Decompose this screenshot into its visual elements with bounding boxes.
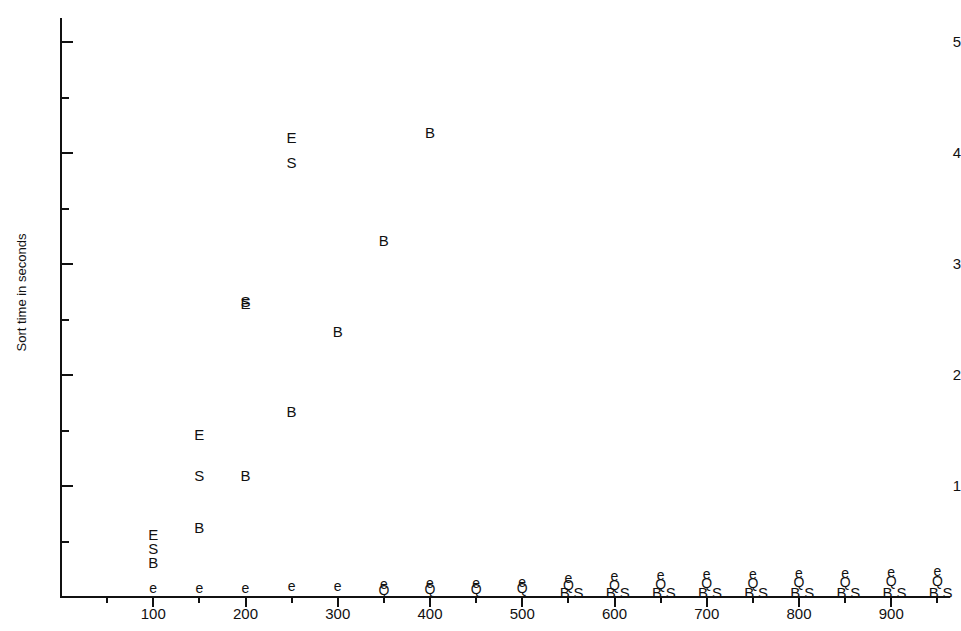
x-tick-minor — [475, 598, 477, 603]
x-tick-minor — [198, 598, 200, 603]
y-tick-major — [62, 374, 73, 376]
data-point-B-baseline: B — [881, 585, 895, 600]
data-point-S-baseline: S — [664, 585, 678, 600]
data-point-B: B — [146, 555, 160, 570]
data-point-B-baseline: B — [558, 585, 572, 600]
x-tick-label: 500 — [492, 606, 552, 621]
data-point-B: B — [239, 468, 253, 483]
data-point-B-baseline: B — [834, 585, 848, 600]
x-tick-minor — [106, 598, 108, 603]
data-point-S: S — [192, 468, 206, 483]
data-point-S-baseline: S — [710, 585, 724, 600]
y-tick-label: 1 — [915, 478, 961, 493]
data-point-S: S — [285, 155, 299, 170]
y-axis-title: Sort time in seconds — [14, 198, 29, 388]
data-point-B-baseline: B — [604, 585, 618, 600]
data-point-e: e — [192, 581, 206, 596]
data-point-B: B — [331, 324, 345, 339]
x-axis-line — [60, 596, 950, 598]
data-point-B: B — [423, 125, 437, 140]
data-point-Q: Q — [515, 581, 529, 596]
data-point-B-baseline: B — [696, 585, 710, 600]
y-tick-label: 4 — [915, 145, 961, 160]
scatter-plot: Sort time in seconds 12345 1002003004005… — [0, 0, 961, 631]
data-point-E: E — [192, 427, 206, 442]
x-tick-label: 600 — [585, 606, 645, 621]
data-point-e: e — [239, 581, 253, 596]
y-axis-line — [60, 18, 62, 598]
data-point-B: B — [377, 233, 391, 248]
data-point-Q: Q — [423, 582, 437, 597]
y-tick-label: 3 — [915, 256, 961, 271]
x-tick-label: 700 — [677, 606, 737, 621]
data-point-B-baseline: B — [927, 585, 941, 600]
data-point-B: B — [285, 404, 299, 419]
data-point-S-baseline: S — [572, 585, 586, 600]
y-tick-major — [62, 485, 73, 487]
data-point-S-baseline: S — [941, 585, 955, 600]
data-point-Q: Q — [469, 582, 483, 597]
x-tick-label: 800 — [769, 606, 829, 621]
data-point-E: E — [285, 130, 299, 145]
x-tick-label: 300 — [308, 606, 368, 621]
x-tick-label: 200 — [216, 606, 276, 621]
data-point-B-baseline: B — [742, 585, 756, 600]
y-tick-label: 2 — [915, 367, 961, 382]
data-point-e: e — [285, 579, 299, 594]
data-point-B-baseline: B — [650, 585, 664, 600]
data-point-e: e — [146, 581, 160, 596]
y-tick-minor — [62, 319, 69, 321]
data-point-S-baseline: S — [894, 585, 908, 600]
y-tick-major — [62, 41, 73, 43]
y-tick-label: 5 — [915, 34, 961, 49]
y-tick-major — [62, 263, 73, 265]
data-point-B-baseline: B — [788, 585, 802, 600]
y-tick-major — [62, 152, 73, 154]
y-tick-minor — [62, 97, 69, 99]
data-point-e: e — [331, 579, 345, 594]
data-point-S-baseline: S — [802, 585, 816, 600]
x-tick-minor — [291, 598, 293, 603]
data-point-B: B — [192, 520, 206, 535]
x-tick-label: 100 — [123, 606, 183, 621]
y-tick-minor — [62, 541, 69, 543]
y-tick-minor — [62, 208, 69, 210]
x-tick-label: 400 — [400, 606, 460, 621]
data-point-Q: Q — [377, 583, 391, 598]
data-point-S: S — [239, 294, 253, 309]
x-tick-minor — [383, 598, 385, 603]
data-point-S-baseline: S — [756, 585, 770, 600]
data-point-S-baseline: S — [618, 585, 632, 600]
x-tick-label: 900 — [861, 606, 921, 621]
data-point-S-baseline: S — [848, 585, 862, 600]
y-tick-minor — [62, 430, 69, 432]
